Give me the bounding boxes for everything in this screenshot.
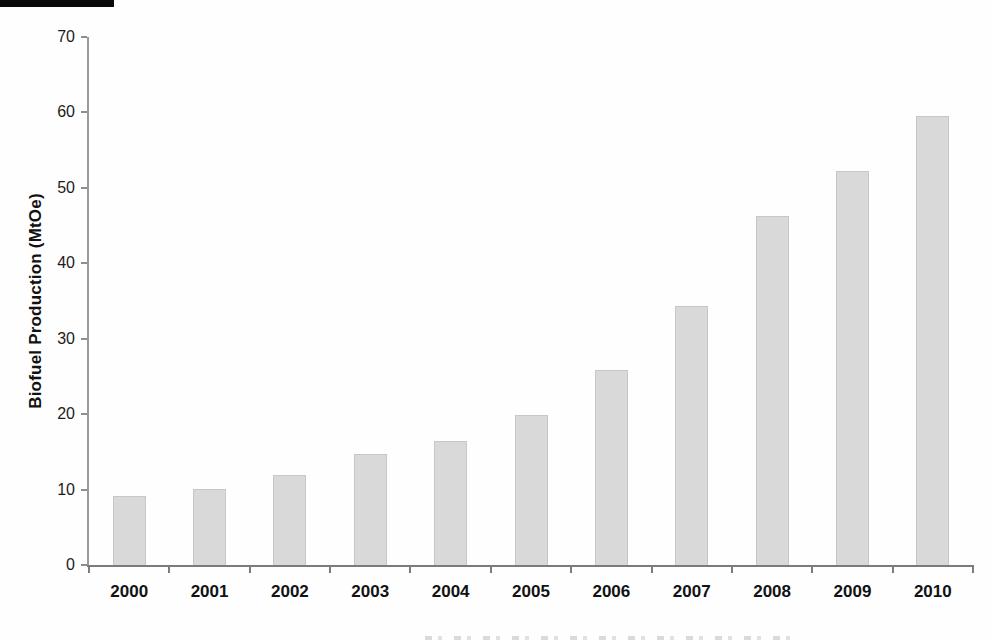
x-category-label: 2006 (571, 583, 651, 600)
y-axis-line (87, 37, 89, 567)
y-tick-mark (81, 489, 87, 491)
bar-2009 (836, 171, 869, 565)
bar-2003 (354, 454, 387, 565)
bar-2006 (595, 370, 628, 565)
x-category-label: 2007 (652, 583, 732, 600)
y-tick-label: 10 (11, 482, 75, 498)
y-tick-label: 50 (11, 180, 75, 196)
bar-2002 (273, 475, 306, 565)
x-tick-mark (249, 567, 251, 573)
x-category-label: 2005 (491, 583, 571, 600)
bar-2000 (113, 496, 146, 565)
x-tick-mark (570, 567, 572, 573)
bar-2008 (756, 216, 789, 565)
y-axis-title: Biofuel Production (MtOe) (26, 193, 46, 409)
plot-area: 0102030405060702000200120022003200420052… (89, 37, 973, 565)
y-tick-mark (81, 413, 87, 415)
x-tick-mark (329, 567, 331, 573)
x-tick-mark (972, 567, 974, 573)
y-tick-mark (81, 338, 87, 340)
y-tick-mark (81, 111, 87, 113)
y-tick-label: 60 (11, 104, 75, 120)
x-category-label: 2002 (250, 583, 330, 600)
y-tick-mark (81, 262, 87, 264)
scan-artifact-bar (0, 0, 114, 7)
x-tick-mark (731, 567, 733, 573)
y-tick-label: 70 (11, 29, 75, 45)
bar-2007 (675, 306, 708, 565)
bar-2005 (515, 415, 548, 565)
x-tick-mark (168, 567, 170, 573)
x-tick-mark (651, 567, 653, 573)
x-axis-line (87, 565, 974, 567)
y-tick-mark (81, 187, 87, 189)
y-tick-label: 40 (11, 255, 75, 271)
x-category-label: 2009 (812, 583, 892, 600)
bar-2001 (193, 489, 226, 565)
bar-2010 (916, 116, 949, 565)
cutoff-caption-artifact (425, 636, 795, 640)
x-tick-mark (811, 567, 813, 573)
y-tick-mark (81, 564, 87, 566)
x-category-label: 2004 (410, 583, 490, 600)
x-category-label: 2003 (330, 583, 410, 600)
x-category-label: 2008 (732, 583, 812, 600)
x-tick-mark (409, 567, 411, 573)
y-tick-label: 0 (11, 557, 75, 573)
y-tick-label: 20 (11, 406, 75, 422)
bar-2004 (434, 441, 467, 565)
x-category-label: 2010 (893, 583, 973, 600)
x-category-label: 2001 (169, 583, 249, 600)
x-category-label: 2000 (89, 583, 169, 600)
y-tick-label: 30 (11, 331, 75, 347)
x-tick-mark (88, 567, 90, 573)
y-tick-mark (81, 36, 87, 38)
x-tick-mark (490, 567, 492, 573)
chart-figure: Biofuel Production (MtOe) 01020304050607… (0, 0, 992, 640)
x-tick-mark (892, 567, 894, 573)
